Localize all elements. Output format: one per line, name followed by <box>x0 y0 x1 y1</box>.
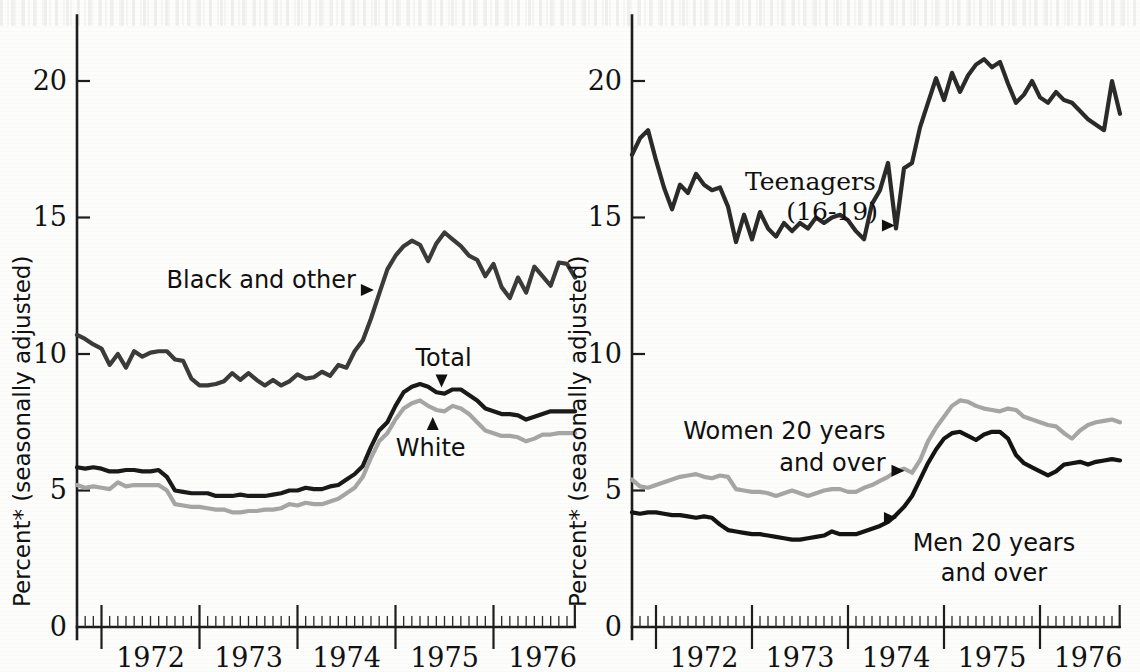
x-axis-tick-label: 1975 <box>958 642 1027 672</box>
series-annotation-label: Black and other <box>167 266 356 294</box>
series-annotation-label: White <box>396 434 466 462</box>
series-annotation-label: (16-19) <box>786 197 878 226</box>
series-line-total <box>77 384 575 496</box>
y-axis-title: Percent* (seasonally adjusted) <box>565 256 591 607</box>
series-annotation-label: Total <box>415 344 472 372</box>
series-annotation-label: Women 20 years <box>683 417 885 445</box>
right-chart-svg: 0510152019721973197419751976Percent* (se… <box>570 0 1140 672</box>
annotation-pointer <box>436 375 448 388</box>
x-axis-tick-label: 1972 <box>670 642 739 672</box>
x-axis-tick-label: 1974 <box>862 642 931 672</box>
series-annotation-label: Teenagers <box>745 167 876 196</box>
y-axis-tick-label: 10 <box>33 338 67 369</box>
series-line-white <box>77 400 575 512</box>
x-axis-tick-label: 1973 <box>214 642 283 672</box>
annotation-pointer <box>882 219 895 231</box>
x-axis-tick-label: 1972 <box>116 642 185 672</box>
series-annotation-label: and over <box>779 449 885 477</box>
figure-root: 0510152019721973197419751976Percent* (se… <box>0 0 1140 672</box>
y-axis-tick-label: 0 <box>605 611 622 642</box>
series-line-black-and-other <box>77 233 575 386</box>
annotation-pointer <box>361 284 374 296</box>
y-axis-tick-label: 20 <box>588 65 622 96</box>
annotation-pointer <box>892 465 905 477</box>
x-axis-tick-label: 1974 <box>312 642 381 672</box>
y-axis-tick-label: 15 <box>588 201 622 232</box>
x-axis-tick-label: 1976 <box>1054 642 1123 672</box>
series-annotation-label: Men 20 years <box>913 529 1076 557</box>
y-axis-tick-label: 10 <box>588 338 622 369</box>
annotation-pointer <box>427 417 439 430</box>
chart-panel-right: 0510152019721973197419751976Percent* (se… <box>570 0 1140 672</box>
left-chart-svg: 0510152019721973197419751976Percent* (se… <box>0 0 570 672</box>
y-axis-tick-label: 5 <box>50 474 67 505</box>
y-axis-title: Percent* (seasonally adjusted) <box>9 256 35 607</box>
y-axis-tick-label: 15 <box>33 201 67 232</box>
series-annotation-label: and over <box>941 559 1047 587</box>
x-axis-tick-label: 1976 <box>508 642 577 672</box>
y-axis-tick-label: 0 <box>50 611 67 642</box>
y-axis-tick-label: 5 <box>605 474 622 505</box>
chart-panel-left: 0510152019721973197419751976Percent* (se… <box>0 0 570 672</box>
x-axis-tick-label: 1975 <box>410 642 479 672</box>
x-axis-tick-label: 1973 <box>766 642 835 672</box>
y-axis-tick-label: 20 <box>33 65 67 96</box>
